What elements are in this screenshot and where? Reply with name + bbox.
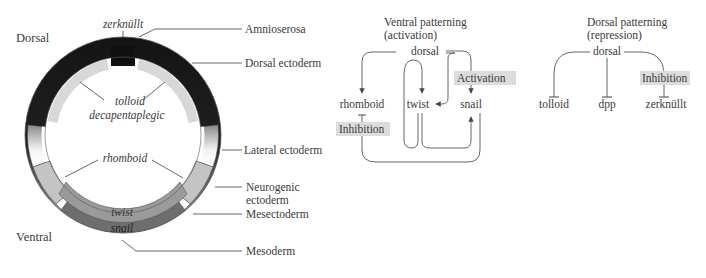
tissue-neurogenic-ectoderm: ectoderm: [246, 194, 289, 206]
inhibition-badge-ventral-label: Inhibition: [339, 123, 385, 135]
ventral-target-twist: twist: [407, 98, 430, 110]
label-twist: twist: [111, 206, 134, 218]
activation-badge-label: Activation: [457, 72, 506, 84]
label-zerknullt: zerknüllt: [102, 18, 144, 30]
ventral-source-dorsal: dorsal: [411, 45, 439, 57]
dorsal-title-line1: Dorsal patterning: [587, 16, 667, 29]
dorsal-patterning-diagram: Dorsal patterning (repression) dorsal In…: [539, 16, 690, 111]
dorsal-source-dorsal: dorsal: [593, 45, 621, 57]
ventral-patterning-diagram: Ventral patterning (activation) dorsal A…: [336, 16, 516, 162]
dorsal-target-zerknullt: zerknüllt: [646, 98, 688, 110]
tissue-dorsal-ectoderm: Dorsal ectoderm: [245, 57, 321, 69]
label-rhomboid: rhomboid: [103, 152, 148, 164]
ventral-target-snail: snail: [460, 98, 482, 110]
dorsal-title-line2: (repression): [587, 29, 642, 42]
ventral-title-line1: Ventral patterning: [384, 16, 467, 29]
ventral-target-rhomboid: rhomboid: [340, 98, 385, 110]
inhibition-badge-dorsal-label: Inhibition: [642, 72, 688, 84]
axis-dorsal: Dorsal: [16, 31, 50, 45]
dorsal-target-tolloid: tolloid: [539, 98, 569, 110]
axis-ventral: Ventral: [16, 230, 53, 244]
tissue-mesectoderm: Mesectoderm: [246, 208, 309, 220]
ventral-title-line2: (activation): [384, 29, 437, 42]
tissue-lateral-ectoderm: Lateral ectoderm: [244, 144, 322, 156]
label-tolloid: tolloid: [115, 95, 145, 107]
label-decapentaplegic: decapentaplegic: [89, 109, 164, 122]
label-snail: snail: [111, 222, 133, 234]
tissue-mesoderm: Mesoderm: [246, 245, 295, 257]
tissue-amnioserosa: Amnioserosa: [245, 23, 306, 35]
amnioserosa-block: [111, 46, 135, 66]
dorsal-target-dpp: dpp: [598, 98, 616, 111]
embryo-cross-section: zerknüllt tolloid decapentaplegic rhombo…: [16, 18, 322, 257]
figure-canvas: zerknüllt tolloid decapentaplegic rhombo…: [0, 0, 706, 278]
tissue-neurogenic: Neurogenic: [246, 181, 300, 194]
